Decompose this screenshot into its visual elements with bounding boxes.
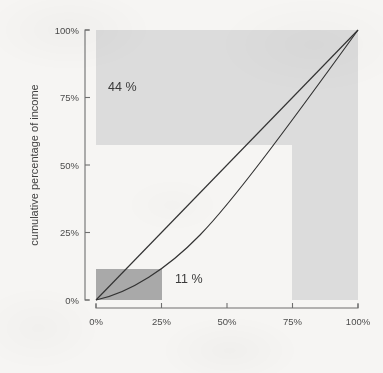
y-axis [85, 30, 90, 300]
y-tick-label-100: 100% [55, 25, 80, 36]
x-tick-label-100: 100% [346, 316, 371, 327]
x-tick-labels: 0% 25% 50% 75% 100% [89, 316, 371, 327]
x-tick-label-50: 50% [217, 316, 237, 327]
x-tick-label-25: 25% [152, 316, 172, 327]
x-axis [96, 303, 358, 308]
x-tick-label-75: 75% [283, 316, 303, 327]
y-tick-label-75: 75% [60, 92, 80, 103]
y-tick-labels: 0% 25% 50% 75% 100% [55, 25, 80, 306]
top-share-label: 44 % [108, 80, 137, 94]
chart-svg: 0% 25% 50% 75% 100% 0% 25% 50% 75% 100% … [0, 0, 383, 373]
y-tick-label-25: 25% [60, 227, 80, 238]
x-tick-label-0: 0% [89, 316, 103, 327]
top-quartile-band [292, 145, 358, 300]
bottom-share-label: 11 % [175, 272, 203, 286]
bottom-quartile-band [96, 269, 162, 300]
lorenz-curve-figure: 0% 25% 50% 75% 100% 0% 25% 50% 75% 100% … [0, 0, 383, 373]
y-tick-label-50: 50% [60, 160, 80, 171]
y-axis-title: cumulative percentage of income [28, 84, 40, 245]
y-tick-label-0: 0% [65, 295, 79, 306]
